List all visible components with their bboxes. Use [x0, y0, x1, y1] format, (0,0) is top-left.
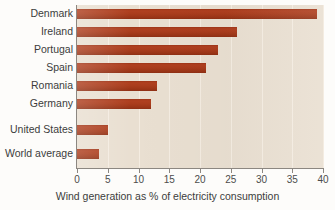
- x-tick-mark: [292, 169, 293, 173]
- category-label: Denmark: [30, 8, 73, 19]
- bar: [77, 81, 157, 91]
- x-tick-mark: [262, 169, 263, 173]
- y-axis-line: [76, 5, 77, 169]
- x-tick-label: 20: [194, 174, 205, 186]
- bar-row: [77, 149, 323, 159]
- x-tick-mark: [323, 169, 324, 173]
- bar-row: [77, 27, 323, 37]
- x-tick-label: 40: [317, 174, 328, 186]
- x-tick-label: 15: [164, 174, 175, 186]
- x-tick-label: 5: [105, 174, 111, 186]
- x-tick-mark: [139, 169, 140, 173]
- category-label: Germany: [30, 98, 73, 109]
- category-label: World average: [5, 148, 73, 159]
- bar-row: [77, 45, 323, 55]
- bar: [77, 63, 206, 73]
- wind-generation-bar-chart: Wind generation as % of electricity cons…: [0, 0, 335, 210]
- x-tick-label: 10: [133, 174, 144, 186]
- x-tick-label: 35: [287, 174, 298, 186]
- bar-row: [77, 125, 323, 135]
- bar: [77, 9, 317, 19]
- x-tick-mark: [108, 169, 109, 173]
- x-tick-label: 0: [74, 174, 80, 186]
- category-label: Spain: [46, 62, 73, 73]
- category-label: Ireland: [41, 26, 73, 37]
- category-label: Portugal: [34, 44, 73, 55]
- bar-row: [77, 63, 323, 73]
- x-tick-mark: [77, 169, 78, 173]
- x-tick-mark: [200, 169, 201, 173]
- bar-row: [77, 99, 323, 109]
- x-tick-label: 30: [256, 174, 267, 186]
- category-label: Romania: [31, 80, 73, 91]
- x-axis-title: Wind generation as % of electricity cons…: [0, 190, 335, 202]
- x-tick-mark: [169, 169, 170, 173]
- bar-row: [77, 9, 323, 19]
- x-tick-label: 25: [225, 174, 236, 186]
- bar: [77, 99, 151, 109]
- bar: [77, 149, 99, 159]
- category-label: United States: [10, 124, 73, 135]
- gridline: [323, 5, 324, 168]
- plot-area: [77, 5, 323, 168]
- bar-row: [77, 81, 323, 91]
- x-tick-mark: [231, 169, 232, 173]
- bar: [77, 27, 237, 37]
- bar: [77, 125, 108, 135]
- bar: [77, 45, 218, 55]
